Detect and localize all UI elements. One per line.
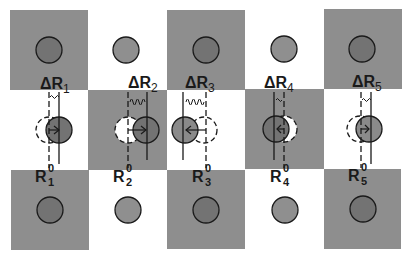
atom-top-1 [36, 37, 62, 63]
displaced-site-5 [347, 92, 382, 168]
svg-text:R: R [113, 168, 125, 185]
svg-text:3: 3 [205, 176, 211, 188]
svg-text:1: 1 [48, 176, 54, 188]
lattice-diagram: ΔR1 ΔR2 ΔR3 ΔR4 ΔR5 R 0 1 R 0 2 R 0 3 R … [0, 0, 411, 261]
spring-icon-1 [50, 96, 59, 99]
atom-bot-3 [193, 197, 219, 223]
svg-text:0: 0 [126, 162, 132, 174]
displaced-site-1 [36, 92, 72, 168]
svg-text:0: 0 [283, 162, 289, 174]
svg-text:2: 2 [126, 176, 132, 188]
svg-text:R: R [192, 168, 204, 185]
atom-top-5 [349, 36, 375, 62]
svg-text:R: R [348, 167, 360, 184]
atom-bot-4 [272, 197, 298, 223]
svg-text:4: 4 [283, 176, 290, 188]
atom-top-2 [113, 37, 139, 63]
svg-text:5: 5 [361, 175, 367, 187]
svg-text:0: 0 [48, 162, 54, 174]
atom-bot-1 [37, 197, 63, 223]
atom-top-4 [271, 36, 297, 62]
atom-mid-4 [263, 116, 289, 142]
svg-text:0: 0 [361, 161, 367, 173]
displaced-site-3 [172, 92, 217, 168]
atom-bot-2 [115, 197, 141, 223]
atom-top-3 [193, 37, 219, 63]
atom-bot-5 [350, 196, 376, 222]
svg-text:R: R [35, 168, 47, 185]
svg-text:0: 0 [205, 162, 211, 174]
spring-icon-5 [362, 99, 371, 102]
svg-text:R: R [270, 168, 282, 185]
spring-icon-3 [186, 99, 204, 105]
